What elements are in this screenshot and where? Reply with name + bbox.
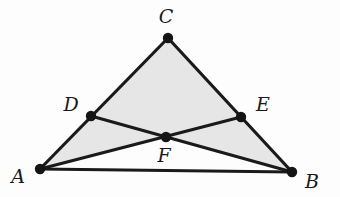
vertex-label-c: C [159, 7, 174, 26]
vertex-dot-d [86, 111, 96, 121]
vertex-label-e: E [256, 95, 270, 114]
vertex-label-d: D [63, 95, 78, 114]
geometry-figure: ABCDEF [0, 0, 340, 197]
vertex-label-b: B [305, 172, 319, 191]
vertex-dot-a [35, 164, 45, 174]
vertex-dot-b [287, 167, 297, 177]
vertex-label-f: F [157, 146, 170, 165]
vertex-dot-e [236, 112, 246, 122]
vertex-dot-c [163, 33, 173, 43]
figure-canvas [0, 0, 340, 197]
segment-a-b [40, 169, 292, 172]
vertex-label-a: A [11, 167, 25, 186]
vertex-dot-f [161, 132, 171, 142]
